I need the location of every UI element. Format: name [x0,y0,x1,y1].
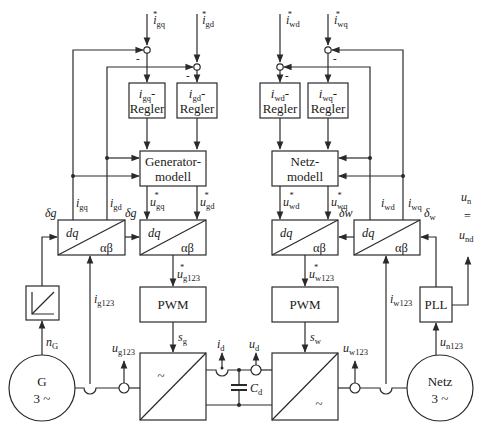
ref-igq-input: igq* [147,9,166,45]
dq-alphabeta-transform-grid-meas: dq αβ [354,220,420,255]
grid-side: iwd* iwq* - - iwd- Regler iwq- Regler [260,9,474,421]
svg-text:PWM: PWM [289,297,321,312]
igq-controller: igq- Regler [129,83,165,118]
svg-text:und: und [459,228,474,244]
label-uwd-star: uwd* [283,190,300,211]
svg-text:dq: dq [362,226,375,240]
generator-machine: G 3 ~ [9,355,75,421]
label-ig123: ig123 [94,292,114,308]
iwq-controller: iwq- Regler [308,83,348,118]
summing-node-igq [144,47,150,53]
svg-text:modell: modell [287,169,323,184]
dq-alphabeta-transform-gen-ref: dq αβ [140,220,206,255]
label-uw123-star: uw123* [309,262,334,283]
svg-text:Generator-: Generator- [145,154,201,169]
minus-sign: - [186,69,190,81]
svg-text:dq: dq [66,226,79,240]
label-igq: igq [76,196,89,212]
svg-text:αβ: αβ [181,241,194,255]
svg-text:=: = [464,209,471,223]
svg-text:iwq*: iwq* [334,9,348,29]
summing-node-iwq [325,47,331,53]
svg-text:~: ~ [315,396,322,411]
label-uw123: uw123 [343,341,368,357]
generator-converter: ~ [140,353,206,420]
label-ug123: ug123 [112,341,135,357]
grid-source: Netz 3 ~ [407,355,473,421]
generator-model: Generator- modell [140,151,206,186]
svg-text:G: G [37,374,46,389]
label-igd: igd [110,196,123,212]
pll-block: PLL [420,287,452,322]
svg-text:αβ: αβ [395,241,408,255]
label-id: id [217,337,225,353]
svg-text:Regler: Regler [263,101,298,116]
label-ugq-star: ugq* [150,190,165,211]
label-sg: sg [178,330,188,346]
grid-converter: ~ [272,353,338,420]
igd-controller: igd- Regler [177,83,217,118]
svg-text:Regler: Regler [130,101,165,116]
pwm-generator: PWM [140,287,206,322]
svg-text:3 ~: 3 ~ [432,391,449,406]
label-iwq: iwq [408,196,422,212]
ref-igd-input: igd* [197,9,215,62]
minus-sign: - [333,52,337,64]
minus-sign: - [136,52,140,64]
svg-text:Regler: Regler [311,101,346,116]
svg-text:PLL: PLL [424,297,447,312]
summing-node-iwd [277,64,283,70]
svg-text:igq*: igq* [153,9,166,29]
generator-side: igq* igd* - - igq- Regler igd- R [9,9,217,421]
svg-text:Netz-: Netz- [291,154,320,169]
svg-text:modell: modell [155,169,191,184]
ref-iwd-input: iwd* [280,9,300,62]
svg-text:iwd*: iwd* [286,9,300,29]
label-sw: sw [310,330,322,346]
label-delta-w: δw [424,206,437,222]
svg-text:PWM: PWM [157,297,189,312]
integrator-block [26,286,59,320]
svg-text:αβ: αβ [313,241,326,255]
minus-sign: - [285,69,289,81]
iwd-controller: iwd- Regler [260,83,300,118]
svg-text:dq: dq [280,226,293,240]
label-delta-g: δg [125,206,137,220]
label-ug123-star: ug123* [177,262,200,283]
dq-alphabeta-transform-gen-meas: dq αβ [58,220,125,255]
label-delta-g: δg [45,206,57,220]
svg-text:αβ: αβ [100,241,113,255]
output-un-equals-und: un = und [459,190,474,244]
pwm-grid: PWM [272,287,338,322]
summing-node-igd [194,64,200,70]
label-delta-w: δw [339,206,353,220]
svg-text:Regler: Regler [180,101,215,116]
ref-iwq-input: iwq* [328,9,348,45]
svg-text:Netz: Netz [428,374,453,389]
svg-text:3 ~: 3 ~ [34,391,51,406]
control-block-diagram: igq* igd* - - igq- Regler igd- R [0,0,489,431]
label-nG: nG [46,335,58,351]
dq-alphabeta-transform-grid-ref: dq αβ [272,220,338,255]
label-ugd-star: ugd* [200,190,215,211]
label-iw123: iw123 [390,292,412,308]
label-iwd: iwd [381,196,395,212]
label-un123: un123 [440,335,463,351]
dc-link: id ud Cd [206,337,272,407]
svg-text:dq: dq [148,226,161,240]
grid-model: Netz- modell [272,151,338,186]
svg-text:igd*: igd* [202,9,215,29]
svg-text:un: un [461,190,472,206]
label-ud: ud [249,337,260,353]
svg-text:~: ~ [157,368,164,383]
label-Cd: Cd [250,381,263,397]
